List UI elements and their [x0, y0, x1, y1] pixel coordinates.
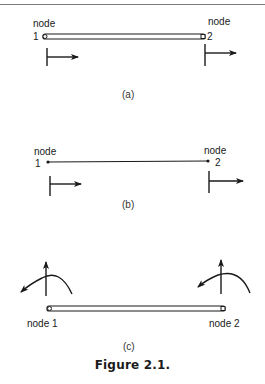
node-2-marker-c [221, 307, 225, 311]
panel-label-a: (a) [122, 89, 134, 100]
node-2-label-c: node 2 [209, 318, 240, 329]
displacement-arrow-node-2-b [209, 171, 243, 193]
node-1-marker-c [48, 307, 52, 311]
rotation-arrow-node-2-c [198, 273, 250, 293]
node-2-marker-a [201, 35, 205, 39]
node-1-number-label-b: 1 [35, 158, 41, 169]
panel-a-bar [43, 34, 205, 39]
displacement-arrow-node-1-b [50, 176, 81, 196]
node-1-label-c: node 1 [27, 318, 58, 329]
displacement-arrow-node-2-a [205, 44, 236, 66]
node-1-marker-a [43, 35, 47, 39]
panel-c-beam [47, 306, 225, 311]
panel-b-line [46, 159, 209, 163]
panel-label-b: (b) [122, 199, 134, 210]
panel-label-c: (c) [123, 341, 135, 352]
node-1-name-label-a: node [33, 18, 55, 29]
node-1-number-label-a: 1 [33, 31, 39, 42]
node-2-name-label-b: node [204, 145, 226, 156]
bar-element-a [43, 34, 205, 39]
line-element-b [48, 161, 208, 162]
node-2-dot-b [206, 159, 209, 162]
displacement-arrow-node-1-a [47, 48, 78, 66]
node-1-name-label-b: node [34, 146, 56, 157]
node-2-number-label-b: 2 [215, 157, 221, 168]
node-2-number-label-a: 2 [207, 31, 213, 42]
node-2-name-label-a: node [208, 16, 230, 27]
beam-element-c [47, 306, 225, 311]
figure-caption: Figure 2.1. [0, 358, 265, 372]
node-1-dot-b [46, 160, 49, 163]
